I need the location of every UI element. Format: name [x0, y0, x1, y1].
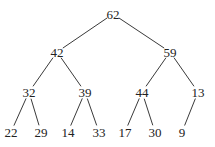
tree-edge-62-59 [119, 18, 164, 48]
tree-edge-42-39 [61, 58, 81, 87]
tree-edge-44-17 [128, 98, 140, 125]
tree-node-39: 39 [79, 86, 92, 99]
tree-node-44: 44 [136, 86, 149, 99]
tree-edge-13-9 [185, 99, 196, 126]
tree-edge-59-44 [146, 58, 166, 87]
tree-edge-62-42 [63, 18, 107, 48]
tree-node-33: 33 [93, 126, 106, 139]
tree-edge-59-13 [174, 58, 194, 87]
tree-node-13: 13 [192, 86, 205, 99]
tree-node-22: 22 [5, 126, 18, 139]
tree-node-17: 17 [119, 126, 132, 139]
tree-node-30: 30 [149, 126, 162, 139]
tree-edge-32-29 [31, 99, 39, 126]
tree-node-29: 29 [35, 126, 48, 139]
tree-edge-42-32 [33, 58, 53, 87]
tree-edge-39-33 [87, 99, 96, 126]
tree-edge-32-22 [14, 98, 26, 125]
tree-node-14: 14 [62, 126, 75, 139]
tree-edge-39-14 [71, 98, 83, 125]
tree-node-59: 59 [164, 46, 177, 59]
tree-node-42: 42 [51, 46, 64, 59]
tree-node-32: 32 [23, 86, 36, 99]
tree-node-9: 9 [179, 126, 186, 139]
tree-node-62: 62 [107, 8, 120, 21]
tree-edge-44-30 [144, 99, 153, 126]
